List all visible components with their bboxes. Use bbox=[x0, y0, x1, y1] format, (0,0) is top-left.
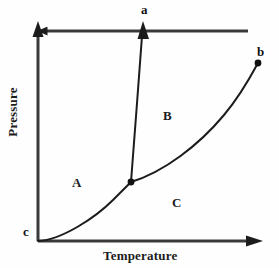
vaporization-curve bbox=[131, 63, 258, 182]
region-label-a: A bbox=[72, 175, 81, 191]
region-label-b: B bbox=[163, 108, 172, 124]
fusion-curve bbox=[131, 36, 142, 182]
x-axis-label: Temperature bbox=[103, 248, 177, 264]
region-label-c: C bbox=[172, 195, 181, 211]
triple-point-dot bbox=[128, 179, 135, 186]
y-axis-arrowhead bbox=[33, 21, 44, 37]
point-label-c: c bbox=[23, 224, 29, 240]
y-axis-label: Pressure bbox=[5, 87, 21, 137]
sublimation-curve bbox=[38, 182, 131, 241]
critical-point-dot bbox=[255, 60, 262, 67]
x-axis-arrowhead bbox=[246, 236, 263, 247]
phase-diagram-canvas bbox=[0, 0, 279, 268]
phase-diagram: Temperature Pressure A B C a b c bbox=[0, 0, 279, 268]
point-label-b: b bbox=[257, 44, 264, 60]
point-label-a: a bbox=[141, 2, 148, 18]
